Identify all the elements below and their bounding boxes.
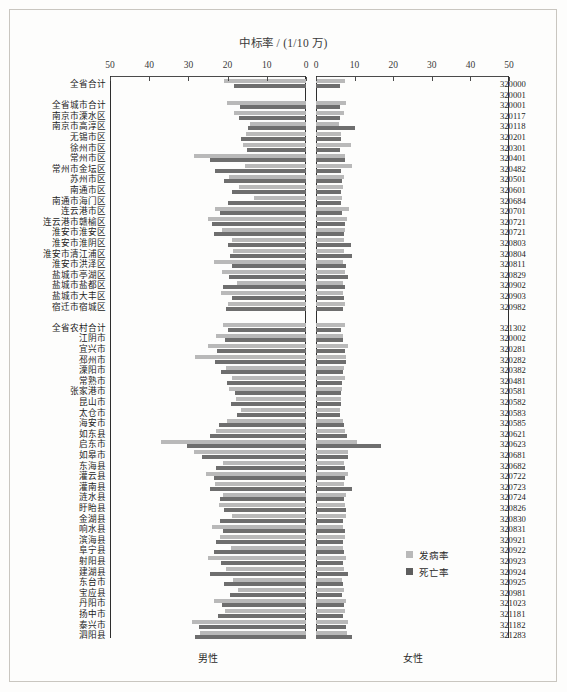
bar-left-mor bbox=[210, 434, 306, 438]
bar-right-mor bbox=[316, 296, 344, 300]
bar-right-inc bbox=[316, 238, 344, 242]
bar-left-inc bbox=[195, 355, 306, 359]
bar-right-inc bbox=[316, 164, 352, 168]
chart-row: 泗阳县321283 bbox=[0, 630, 567, 641]
row-code: 320803 bbox=[500, 238, 560, 248]
row-label: 扬中市 bbox=[14, 609, 106, 619]
bar-left-inc bbox=[232, 376, 306, 380]
chart-row: 南京市高淳区320118 bbox=[0, 121, 567, 132]
bar-right-mor bbox=[316, 593, 342, 597]
chart-row: 阜宁县320922 bbox=[0, 545, 567, 556]
bar-left-inc bbox=[223, 461, 306, 465]
chart-row: 海安市320585 bbox=[0, 418, 567, 429]
row-code: 320829 bbox=[500, 270, 560, 280]
row-label: 建湖县 bbox=[14, 567, 106, 577]
row-code: 320724 bbox=[500, 492, 560, 502]
tick-label: 0 bbox=[304, 60, 309, 70]
chart-row: 宜兴市320281 bbox=[0, 344, 567, 355]
tick-mark bbox=[149, 77, 150, 81]
row-code: 320002 bbox=[500, 333, 560, 343]
tick-mark bbox=[393, 77, 394, 81]
bar-right-inc bbox=[316, 79, 345, 83]
legend-swatch-icon bbox=[406, 551, 413, 558]
chart-row: 宿迁市宿城区320982 bbox=[0, 302, 567, 313]
bar-right-mor bbox=[316, 413, 340, 417]
bar-left-mor bbox=[224, 508, 306, 512]
chart-row: 常州市区320401 bbox=[0, 153, 567, 164]
tick-mark bbox=[355, 77, 356, 81]
panel-label-male: 男性 bbox=[198, 650, 218, 665]
tick-mark bbox=[188, 77, 189, 81]
bar-left-mor bbox=[214, 550, 306, 554]
row-code: 320721 bbox=[500, 227, 560, 237]
bar-left-mor bbox=[214, 232, 307, 236]
bar-right-mor bbox=[316, 603, 344, 607]
bar-right-mor bbox=[316, 201, 341, 205]
tick-mark bbox=[267, 77, 268, 81]
bar-right-inc bbox=[316, 344, 348, 348]
bar-left-inc bbox=[227, 419, 306, 423]
row-code: 321283 bbox=[500, 630, 560, 640]
bar-left-inc bbox=[239, 185, 306, 189]
chart-row: 连云港市区320701 bbox=[0, 206, 567, 217]
bar-right-inc bbox=[316, 556, 346, 560]
row-label: 丹阳市 bbox=[14, 598, 106, 608]
bar-right-mor bbox=[316, 582, 343, 586]
chart-title: 中标率 / (1/10 万) bbox=[0, 34, 567, 50]
bar-left-inc bbox=[228, 302, 306, 306]
row-code: 320501 bbox=[500, 174, 560, 184]
row-code: 320902 bbox=[500, 280, 560, 290]
bar-right-mor bbox=[316, 487, 352, 491]
chart-row: 金湖县320830 bbox=[0, 514, 567, 525]
bar-left-mor bbox=[227, 381, 306, 385]
row-label: 溧阳市 bbox=[14, 365, 106, 375]
bar-left-mor bbox=[239, 116, 306, 120]
tick-label: 30 bbox=[427, 60, 437, 70]
row-label: 南京市溧水区 bbox=[14, 111, 106, 121]
row-code: 320282 bbox=[500, 355, 560, 365]
bar-right-inc bbox=[316, 535, 345, 539]
bar-right-mor bbox=[316, 508, 346, 512]
chart-row: 响水县320831 bbox=[0, 524, 567, 535]
bar-left-mor bbox=[225, 338, 306, 342]
bar-right-inc bbox=[316, 493, 346, 497]
panel-label-female: 女性 bbox=[403, 650, 423, 665]
legend-swatch-icon bbox=[406, 568, 413, 575]
chart-row: 如东县320621 bbox=[0, 429, 567, 440]
row-label: 连云港市赣榆区 bbox=[14, 217, 106, 227]
row-label: 无锡市区 bbox=[14, 132, 106, 142]
chart-row: 连云港市赣榆区320721 bbox=[0, 217, 567, 228]
row-label: 徐州市区 bbox=[14, 143, 106, 153]
legend: 发病率 死亡率 bbox=[406, 546, 449, 580]
tick-label: 20 bbox=[223, 60, 233, 70]
bar-left-mor bbox=[210, 572, 306, 576]
tick-mark bbox=[306, 77, 307, 81]
bar-left-inc bbox=[232, 238, 306, 242]
bar-right-mor bbox=[316, 84, 340, 88]
bar-left-inc bbox=[220, 535, 306, 539]
chart-row: 淮安市淮阴区320803 bbox=[0, 238, 567, 249]
bar-left-mor bbox=[187, 444, 306, 448]
bar-left-mor bbox=[231, 402, 306, 406]
chart-row: 涟水县320724 bbox=[0, 492, 567, 503]
bar-left-mor bbox=[210, 487, 306, 491]
row-label: 灌南县 bbox=[14, 482, 106, 492]
bar-left-mor bbox=[221, 370, 306, 374]
row-code: 320401 bbox=[500, 153, 560, 163]
bar-right-mor bbox=[316, 540, 343, 544]
row-label: 金湖县 bbox=[14, 514, 106, 524]
bar-left-mor bbox=[219, 423, 306, 427]
bar-left-inc bbox=[223, 323, 306, 327]
bar-right-mor bbox=[316, 497, 344, 501]
bar-left-mor bbox=[214, 476, 306, 480]
row-code: 320482 bbox=[500, 164, 560, 174]
bar-left-inc bbox=[216, 334, 306, 338]
bar-left-inc bbox=[208, 556, 306, 560]
bar-right-inc bbox=[316, 387, 342, 391]
chart-rows: 全省合计320000320001全省城市合计320001南京市溧水区320117… bbox=[0, 76, 567, 638]
chart-row: 常州市金坛区320482 bbox=[0, 164, 567, 175]
row-label: 全省农村合计 bbox=[14, 323, 106, 333]
row-label: 苏州市区 bbox=[14, 174, 106, 184]
row-label: 常州市区 bbox=[14, 153, 106, 163]
row-code: 320583 bbox=[500, 408, 560, 418]
